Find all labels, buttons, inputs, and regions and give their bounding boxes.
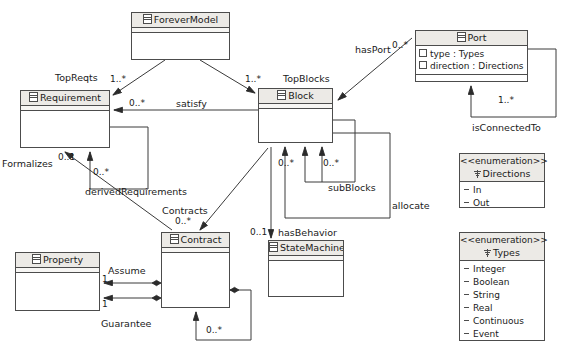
enum-literal: Integer: [464, 263, 540, 276]
edge-label-hasport: hasPort: [355, 44, 391, 55]
class-box-property[interactable]: Property: [15, 252, 100, 311]
attribute-icon: [419, 61, 427, 69]
literal-dash-icon: [464, 333, 469, 334]
enum-literals-types: Integer Boolean String Real Continuous E…: [460, 261, 544, 343]
edge-label-assume: Assume: [108, 265, 146, 276]
enum-box-types[interactable]: <<enumeration>> Types Integer Boolean St…: [459, 232, 545, 341]
enum-literal: Event: [464, 328, 540, 341]
literal-dash-icon: [464, 294, 469, 295]
attribute-row-type: type : Types: [419, 48, 524, 60]
literal-dash-icon: [464, 189, 469, 190]
literal-dash-icon: [464, 307, 469, 308]
enum-literal-label: Integer: [473, 264, 505, 274]
enum-stereotype-directions: <<enumeration>>: [460, 154, 544, 167]
attribute-row-direction: direction : Directions: [419, 60, 524, 72]
class-icon: [269, 242, 278, 252]
enum-literal: Out: [464, 197, 540, 210]
class-box-port[interactable]: Port type : Types direction : Directions: [415, 30, 528, 82]
multiplicity-formalizes: 0..1: [58, 152, 75, 162]
edge-label-topreqts: TopReqts: [55, 72, 98, 83]
enum-literal-label: In: [473, 185, 481, 195]
class-name-property: Property: [43, 254, 83, 265]
enum-literal-label: String: [473, 290, 500, 300]
multiplicity-subblocks-right: 0..*: [323, 158, 339, 168]
enum-name-types: Types: [460, 246, 544, 261]
edge-label-formalizes: Formalizes: [2, 158, 53, 169]
literal-dash-icon: [464, 320, 469, 321]
multiplicity-assume: 1: [102, 274, 108, 284]
class-header-forevermodel: ForeverModel: [132, 13, 229, 28]
class-box-requirement[interactable]: Requirement: [20, 90, 110, 148]
class-name-port: Port: [468, 32, 487, 43]
enum-literal-label: Out: [473, 198, 489, 208]
attribute-label-direction: direction : Directions: [430, 61, 524, 71]
class-name-block: Block: [288, 90, 314, 101]
class-attr-compartment: [21, 106, 109, 111]
class-op-compartment-port: [416, 74, 527, 85]
class-name-statemachine: StateMachine: [280, 242, 343, 253]
enum-literal-label: Real: [473, 303, 492, 313]
class-box-statemachine[interactable]: StateMachine: [268, 240, 344, 297]
multiplicity-subblocks-left: 0..*: [278, 158, 294, 168]
multiplicity-contract-self: 0..*: [206, 325, 222, 335]
attribute-label-type: type : Types: [430, 49, 484, 59]
literal-dash-icon: [464, 281, 469, 282]
class-header-statemachine: StateMachine: [269, 241, 343, 256]
enum-literal: Boolean: [464, 276, 540, 289]
class-header-block: Block: [259, 89, 332, 104]
class-attr-compartment: [269, 256, 343, 261]
edge-label-subblocks: subBlocks: [328, 182, 376, 193]
class-box-contract[interactable]: Contract: [161, 232, 230, 308]
class-name-contract: Contract: [181, 234, 222, 245]
enum-name-directions: Directions: [460, 167, 544, 182]
class-box-forevermodel[interactable]: ForeverModel: [131, 12, 230, 60]
edge-label-isconnectedto: isConnectedTo: [472, 122, 541, 133]
class-name-requirement: Requirement: [40, 92, 101, 103]
edge-label-hasbehavior: hasBehavior: [278, 227, 337, 238]
class-header-requirement: Requirement: [21, 91, 109, 106]
multiplicity-hasport: 0..*: [392, 40, 408, 50]
class-icon: [29, 92, 38, 102]
multiplicity-contracts: 0..*: [175, 216, 191, 226]
uml-diagram-canvas: ForeverModel Requirement Block Port type…: [0, 0, 570, 348]
class-name-forevermodel: ForeverModel: [154, 14, 218, 25]
enum-name-label-types: Types: [493, 247, 520, 258]
enum-literal-label: Event: [473, 329, 499, 339]
class-icon: [143, 14, 152, 24]
multiplicity-derivedrequirements: 0..*: [93, 167, 109, 177]
class-attr-compartment: [16, 268, 99, 273]
enum-literal: In: [464, 184, 540, 197]
class-attr-compartment: [132, 28, 229, 33]
multiplicity-topblocks: 1..*: [245, 74, 261, 84]
enum-literal: Real: [464, 302, 540, 315]
class-icon: [457, 32, 466, 42]
multiplicity-isconnectedto: 1..*: [498, 95, 514, 105]
edge-label-satisfy: satisfy: [176, 98, 207, 109]
enum-box-directions[interactable]: <<enumeration>> Directions In Out: [459, 153, 545, 208]
enumeration-icon: [474, 170, 481, 178]
multiplicity-topreqts: 1..*: [110, 74, 126, 84]
class-header-contract: Contract: [162, 233, 229, 248]
edge-label-contracts: Contracts: [162, 205, 208, 216]
class-icon: [32, 254, 41, 264]
literal-dash-icon: [464, 268, 469, 269]
edge-label-topblocks: TopBlocks: [283, 73, 330, 84]
literal-dash-icon: [464, 202, 469, 203]
class-box-block[interactable]: Block: [258, 88, 333, 143]
enum-stereotype-types: <<enumeration>>: [460, 233, 544, 246]
edge-label-derivedrequirements: derivedRequirements: [85, 186, 187, 197]
class-icon: [170, 234, 179, 244]
multiplicity-guarantee: 1: [102, 299, 108, 309]
enum-literal-label: Boolean: [473, 277, 509, 287]
class-attr-compartment-port: type : Types direction : Directions: [416, 46, 527, 74]
class-header-port: Port: [416, 31, 527, 46]
multiplicity-satisfy: 0..*: [129, 98, 145, 108]
class-attr-compartment: [259, 104, 332, 109]
enum-literals-directions: In Out: [460, 182, 544, 212]
class-attr-compartment: [162, 248, 229, 253]
enum-literal: Continuous: [464, 315, 540, 328]
enumeration-icon: [484, 249, 491, 257]
enum-literal: String: [464, 289, 540, 302]
enum-literal-label: Continuous: [473, 316, 524, 326]
attribute-icon: [419, 49, 427, 57]
